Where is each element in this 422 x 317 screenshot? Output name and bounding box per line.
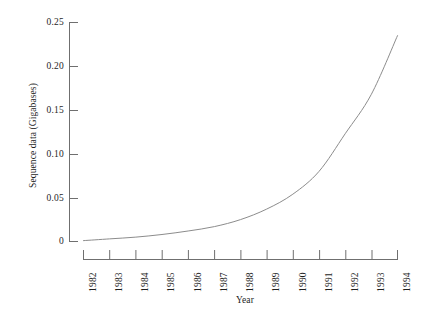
x-tick-label-1982: 1982 xyxy=(88,272,98,292)
data-series-line xyxy=(84,36,398,241)
y-tick-label-0: 0 xyxy=(30,236,64,246)
x-tick-label-1993: 1993 xyxy=(376,272,386,292)
x-axis-title: Year xyxy=(0,295,422,306)
x-tick-label-1990: 1990 xyxy=(298,272,308,292)
x-tick-label-1987: 1987 xyxy=(219,272,229,292)
x-tick-label-1989: 1989 xyxy=(271,272,281,292)
x-axis-title-text: Year xyxy=(236,295,254,306)
y-tick-label-025: 0.25 xyxy=(30,17,64,27)
x-tick-label-1985: 1985 xyxy=(166,272,176,292)
x-tick-label-1992: 1992 xyxy=(350,272,360,292)
x-tick-label-1991: 1991 xyxy=(324,272,334,292)
x-tick-label-1983: 1983 xyxy=(114,272,124,292)
x-tick-label-1988: 1988 xyxy=(245,272,255,292)
x-tick-label-1984: 1984 xyxy=(140,272,150,292)
y-axis-title: Sequence data (Gigabases) xyxy=(28,56,39,216)
x-tick-label-1994: 1994 xyxy=(402,272,412,292)
x-tick-label-1986: 1986 xyxy=(193,272,203,292)
chart-figure: 0.25 0.20 0.15 0.10 0.05 0 1982 1983 198… xyxy=(0,0,422,317)
